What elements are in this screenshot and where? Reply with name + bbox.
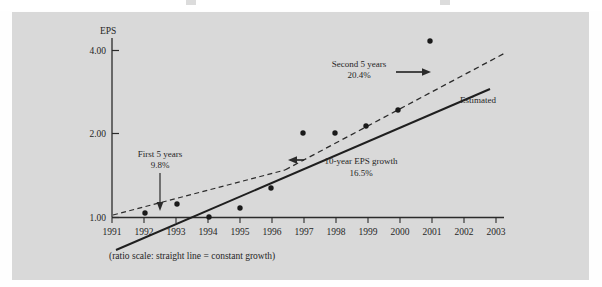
x-tick-label-1997: 1997	[295, 227, 314, 237]
x-tick-label-2001: 2001	[423, 227, 442, 237]
x-tick-label-2003: 2003	[487, 227, 506, 237]
x-tick-label-1994: 1994	[199, 227, 218, 237]
right-arrow-icon	[422, 68, 431, 76]
trend-line-first-5-years	[113, 170, 285, 215]
annotation-ten-year-growth-line2: 16.5%	[349, 168, 373, 178]
y-axis-title: EPS	[100, 26, 116, 36]
x-tick-label-1995: 1995	[231, 227, 250, 237]
x-tick-label-1996: 1996	[263, 227, 282, 237]
x-axis-tick-labels: 1991 1992 1993 1994 1995 1996 1997 1998 …	[103, 227, 506, 237]
eps-growth-chart: 4.00 2.00 1.00 EPS	[12, 12, 589, 280]
annotation-ten-year-growth-line1: 10-year EPS growth	[325, 156, 398, 166]
down-arrow-icon	[157, 202, 164, 211]
x-tick-label-1993: 1993	[167, 227, 186, 237]
trend-line-ten-year-growth	[116, 89, 490, 250]
x-tick-label-1998: 1998	[327, 227, 346, 237]
figure-caption: (ratio scale: straight line = constant g…	[109, 251, 275, 262]
data-point-2001	[427, 38, 432, 43]
annotation-first-5-years-line2: 9.8%	[151, 160, 170, 170]
bleed-mark-right	[440, 0, 450, 5]
data-point-1992	[142, 210, 147, 215]
figure-frame: 4.00 2.00 1.00 EPS	[12, 12, 589, 280]
annotation-second-5-years-line2: 20.4%	[347, 70, 371, 80]
y-tick-label-4: 4.00	[89, 46, 106, 56]
x-tick-label-1991: 1991	[103, 227, 122, 237]
x-tick-label-2000: 2000	[391, 227, 410, 237]
data-point-1993	[174, 201, 179, 206]
bleed-mark-left	[186, 0, 196, 5]
data-point-series	[142, 38, 432, 219]
y-tick-label-2: 2.00	[89, 129, 106, 139]
data-point-1999	[363, 123, 368, 128]
annotation-estimated: Estimated	[460, 95, 496, 105]
data-point-1994	[206, 214, 211, 219]
page-canvas: 4.00 2.00 1.00 EPS	[0, 0, 602, 287]
annotation-first-5-years-line1: First 5 years	[138, 149, 183, 159]
annotation-second-5-years: Second 5 years 20.4%	[332, 59, 431, 80]
left-arrow-icon	[288, 156, 297, 164]
x-tick-label-2002: 2002	[455, 227, 474, 237]
trend-line-second-5-years	[285, 53, 505, 170]
annotation-estimated-label: Estimated	[460, 95, 496, 105]
data-point-2000	[395, 107, 400, 112]
y-axis-ticks	[112, 51, 119, 218]
x-axis-ticks	[112, 218, 496, 224]
data-point-1997	[300, 130, 305, 135]
y-axis-tick-labels: 4.00 2.00 1.00	[89, 46, 106, 223]
data-point-1995	[237, 205, 242, 210]
y-tick-label-1: 1.00	[89, 213, 106, 223]
x-tick-label-1999: 1999	[359, 227, 378, 237]
data-point-1996	[268, 185, 273, 190]
annotation-second-5-years-line1: Second 5 years	[332, 59, 387, 69]
data-point-1998	[332, 130, 337, 135]
page-top-bleed	[0, 0, 602, 11]
chart-axes	[112, 38, 504, 218]
